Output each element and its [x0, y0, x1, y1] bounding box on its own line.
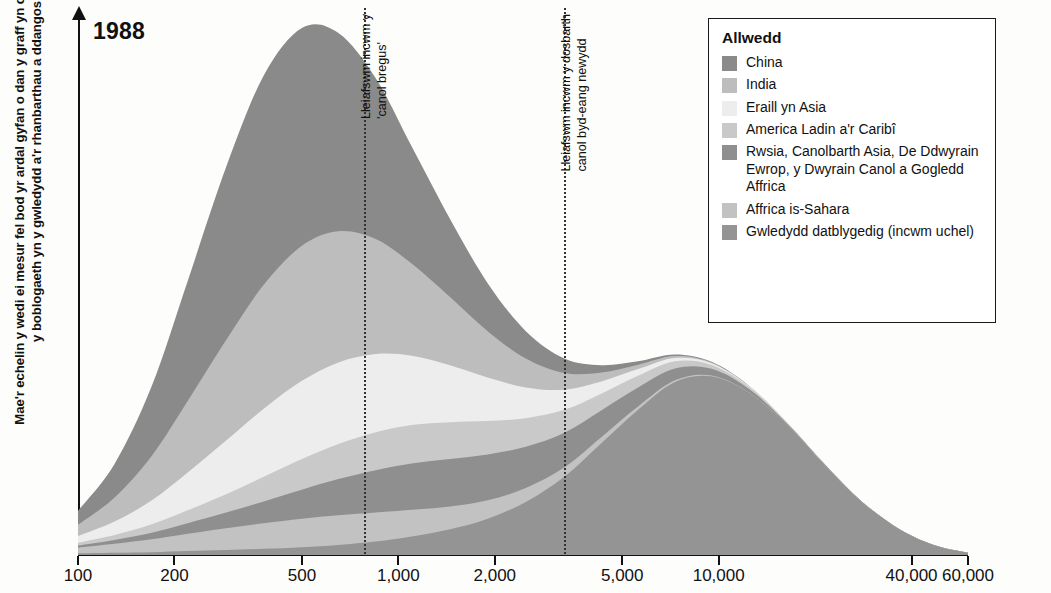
- legend-item-3[interactable]: America Ladin a'r Caribî: [722, 121, 985, 138]
- legend-item-label: Rwsia, Canolbarth Asia, De Ddwyrain Ewro…: [746, 143, 985, 195]
- legend-rows: ChinaIndiaEraill yn AsiaAmerica Ladin a'…: [722, 54, 985, 240]
- x-tick-label: 2,000: [474, 566, 517, 586]
- legend-swatch-icon: [722, 203, 737, 218]
- legend-item-label: America Ladin a'r Caribî: [746, 121, 896, 138]
- annotation-line-1: Lleiafswm incwm y dosbarth: [558, 14, 574, 171]
- x-tick-label: 1,000: [377, 566, 420, 586]
- x-tick-label: 5,000: [601, 566, 644, 586]
- annotation-line-1: Lleiafswm incwm y: [358, 14, 374, 119]
- x-tick-label: 100: [64, 566, 92, 586]
- legend-item-label: Eraill yn Asia: [746, 99, 826, 116]
- legend-title: Allwedd: [722, 29, 985, 47]
- legend-item-1[interactable]: India: [722, 76, 985, 93]
- legend-item-0[interactable]: China: [722, 54, 985, 71]
- legend-box: Allwedd ChinaIndiaEraill yn AsiaAmerica …: [708, 18, 996, 323]
- legend-swatch-icon: [722, 145, 737, 160]
- legend-item-label: Gwledydd datblygedig (incwm uchel): [746, 223, 974, 240]
- x-tick-label: 500: [288, 566, 316, 586]
- global-middle-class-line-label: Lleiafswm incwm y dosbarthcanol byd-eang…: [558, 14, 590, 171]
- legend-swatch-icon: [722, 56, 737, 71]
- chart-stage: Mae'r echelin y wedi ei mesur fel bod yr…: [0, 0, 1051, 593]
- legend-item-4[interactable]: Rwsia, Canolbarth Asia, De Ddwyrain Ewro…: [722, 143, 985, 195]
- fragile-middle-line-label: Lleiafswm incwm y'canol bregus': [358, 14, 390, 119]
- legend-item-2[interactable]: Eraill yn Asia: [722, 99, 985, 116]
- legend-swatch-icon: [722, 101, 737, 116]
- legend-swatch-icon: [722, 78, 737, 93]
- x-tick-mark: [967, 556, 969, 565]
- annotation-line-2: canol byd-eang newydd: [575, 14, 591, 171]
- x-tick-mark: [621, 556, 623, 565]
- x-tick-mark: [77, 556, 79, 565]
- x-tick-label: 10,000: [693, 566, 745, 586]
- x-tick-mark: [911, 556, 913, 565]
- x-tick-mark: [173, 556, 175, 565]
- x-tick-label: 200: [160, 566, 188, 586]
- legend-item-label: China: [746, 54, 783, 71]
- x-tick-mark: [397, 556, 399, 565]
- legend-swatch-icon: [722, 123, 737, 138]
- legend-item-5[interactable]: Affrica is-Sahara: [722, 201, 985, 218]
- legend-item-label: India: [746, 76, 776, 93]
- x-tick-mark: [494, 556, 496, 565]
- annotation-line-2: 'canol bregus': [374, 14, 390, 119]
- y-axis-label: Mae'r echelin y wedi ei mesur fel bod yr…: [11, 0, 45, 427]
- x-tick-label: 40,000: [886, 566, 938, 586]
- legend-item-label: Affrica is-Sahara: [746, 201, 849, 218]
- x-tick-mark: [718, 556, 720, 565]
- x-tick-label: 60,000: [942, 566, 994, 586]
- legend-item-6[interactable]: Gwledydd datblygedig (incwm uchel): [722, 223, 985, 240]
- x-tick-mark: [301, 556, 303, 565]
- legend-swatch-icon: [722, 225, 737, 240]
